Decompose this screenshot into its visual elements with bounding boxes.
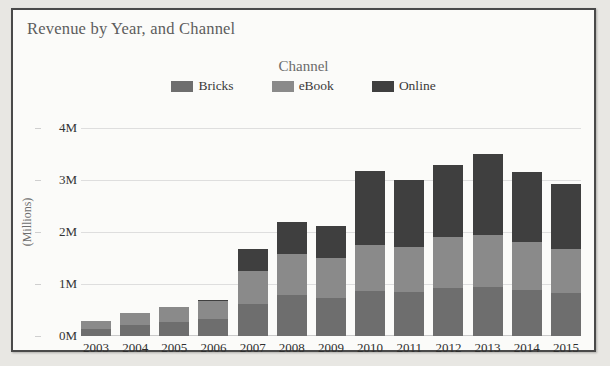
x-tick-label: 2008 [277, 340, 307, 356]
legend-swatch-icon [171, 81, 193, 92]
bar-segment-ebook[interactable] [316, 258, 346, 298]
legend-title: Channel [13, 58, 594, 75]
bar-segment-ebook[interactable] [473, 235, 503, 287]
legend-item-bricks[interactable]: Bricks [171, 78, 233, 94]
x-tick-label: 2011 [394, 340, 424, 356]
y-tick-mark [35, 180, 41, 181]
x-tick-label: 2013 [473, 340, 503, 356]
bar-segment-bricks[interactable] [355, 291, 385, 336]
bar-segment-bricks[interactable] [277, 295, 307, 336]
bar-segment-ebook[interactable] [433, 237, 463, 288]
bar-group[interactable] [316, 128, 346, 336]
bar-segment-online[interactable] [512, 172, 542, 242]
bar-segment-bricks[interactable] [81, 329, 111, 336]
bar-segment-online[interactable] [238, 249, 268, 271]
bar-segment-bricks[interactable] [433, 288, 463, 336]
bar-group[interactable] [355, 128, 385, 336]
bar-group[interactable] [81, 128, 111, 336]
bar-group[interactable] [277, 128, 307, 336]
y-tick-mark [35, 284, 41, 285]
x-tick-label: 2015 [551, 340, 581, 356]
legend-item-online[interactable]: Online [372, 78, 436, 94]
bar-segment-ebook[interactable] [277, 254, 307, 296]
bar-group[interactable] [198, 128, 228, 336]
bar-segment-online[interactable] [551, 184, 581, 248]
y-tick-label: 0M [59, 328, 77, 344]
y-tick-mark [35, 336, 41, 337]
bar-segment-bricks[interactable] [198, 319, 228, 336]
bar-segment-ebook[interactable] [512, 242, 542, 290]
bar-segment-ebook[interactable] [551, 249, 581, 294]
legend-item-ebook[interactable]: eBook [272, 78, 334, 94]
x-tick-label: 2009 [316, 340, 346, 356]
x-tick-label: 2003 [81, 340, 111, 356]
bar-group[interactable] [473, 128, 503, 336]
bar-group[interactable] [120, 128, 150, 336]
bar-series-container [81, 128, 581, 336]
y-tick-label: 2M [59, 224, 77, 240]
legend-swatch-icon [372, 81, 394, 92]
bar-segment-online[interactable] [433, 165, 463, 237]
x-tick-label: 2012 [433, 340, 463, 356]
x-tick-label: 2007 [238, 340, 268, 356]
bar-segment-ebook[interactable] [120, 313, 150, 324]
bar-segment-online[interactable] [394, 180, 424, 247]
bar-group[interactable] [238, 128, 268, 336]
bar-segment-bricks[interactable] [238, 304, 268, 336]
y-axis-title: (Millions) [20, 198, 35, 247]
legend-items: BrickseBookOnline [13, 78, 594, 94]
chart-legend: Channel BrickseBookOnline [13, 58, 594, 94]
legend-swatch-icon [272, 81, 294, 92]
y-tick-mark [35, 128, 41, 129]
bar-group[interactable] [159, 128, 189, 336]
bar-segment-ebook[interactable] [81, 321, 111, 328]
bar-segment-online[interactable] [355, 171, 385, 245]
bar-segment-ebook[interactable] [238, 271, 268, 304]
bar-segment-online[interactable] [316, 226, 346, 258]
x-tick-label: 2005 [159, 340, 189, 356]
plot-area [81, 128, 581, 336]
legend-label: Bricks [198, 78, 233, 94]
bar-group[interactable] [394, 128, 424, 336]
bar-segment-ebook[interactable] [394, 247, 424, 292]
bar-segment-bricks[interactable] [512, 290, 542, 336]
x-tick-label: 2006 [198, 340, 228, 356]
bar-group[interactable] [512, 128, 542, 336]
chart-card: Revenue by Year, and Channel Channel Bri… [11, 8, 596, 352]
y-axis-labels: 0M1M2M3M4M [41, 128, 77, 336]
bar-segment-bricks[interactable] [316, 298, 346, 336]
x-axis-labels: 2003200420052006200720082009201020112012… [81, 340, 581, 356]
bar-segment-bricks[interactable] [120, 325, 150, 336]
bar-segment-ebook[interactable] [198, 301, 228, 319]
x-tick-label: 2004 [120, 340, 150, 356]
y-tick-label: 4M [59, 120, 77, 136]
y-tick-label: 3M [59, 172, 77, 188]
chart-title: Revenue by Year, and Channel [27, 19, 235, 39]
bar-segment-bricks[interactable] [159, 322, 189, 336]
legend-label: Online [399, 78, 436, 94]
bar-group[interactable] [551, 128, 581, 336]
legend-label: eBook [299, 78, 334, 94]
y-tick-mark [35, 232, 41, 233]
bar-segment-bricks[interactable] [394, 292, 424, 336]
x-tick-label: 2014 [512, 340, 542, 356]
bar-segment-online[interactable] [277, 222, 307, 254]
bar-segment-ebook[interactable] [159, 307, 189, 322]
bar-segment-bricks[interactable] [551, 293, 581, 336]
y-tick-label: 1M [59, 276, 77, 292]
bar-segment-online[interactable] [473, 154, 503, 235]
x-tick-label: 2010 [355, 340, 385, 356]
bar-group[interactable] [433, 128, 463, 336]
bar-segment-ebook[interactable] [355, 245, 385, 291]
bar-segment-bricks[interactable] [473, 287, 503, 336]
